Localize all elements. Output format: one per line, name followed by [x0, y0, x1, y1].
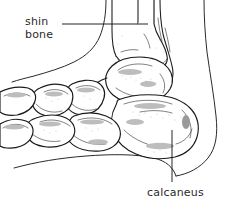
label-calcaneus: calcaneus: [147, 186, 204, 199]
label-shin-bone-line1: shin: [25, 15, 49, 28]
foot-anatomy-figure: shin bone calcaneus: [0, 0, 231, 206]
anatomy-illustration: shin bone calcaneus: [0, 0, 231, 206]
label-shin-bone-line2: bone: [25, 28, 53, 41]
